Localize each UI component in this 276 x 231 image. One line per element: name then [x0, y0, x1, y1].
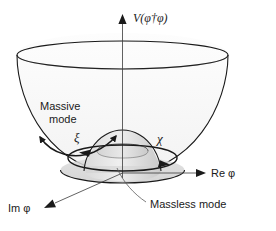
mexican-hat-potential-figure: V(φ†φ) Re φ Im φ χ ξ [0, 0, 276, 231]
im-phi-label: Im φ [8, 202, 30, 214]
vertical-axis-label: V(φ†φ) [133, 11, 168, 25]
massive-mode-label-line2: mode [49, 113, 77, 125]
re-phi-label: Re φ [211, 167, 235, 179]
vertical-axis-arrowhead [118, 14, 126, 24]
re-phi-arrowhead [196, 169, 206, 177]
im-phi-arrowhead [44, 200, 56, 208]
massive-mode-label-line1: Massive [40, 100, 80, 112]
chi-symbol-label: χ [155, 131, 163, 146]
massless-mode-label: Massless mode [150, 198, 226, 210]
xi-symbol-label: ξ [74, 130, 80, 145]
figure-canvas: V(φ†φ) Re φ Im φ χ ξ [0, 0, 276, 231]
